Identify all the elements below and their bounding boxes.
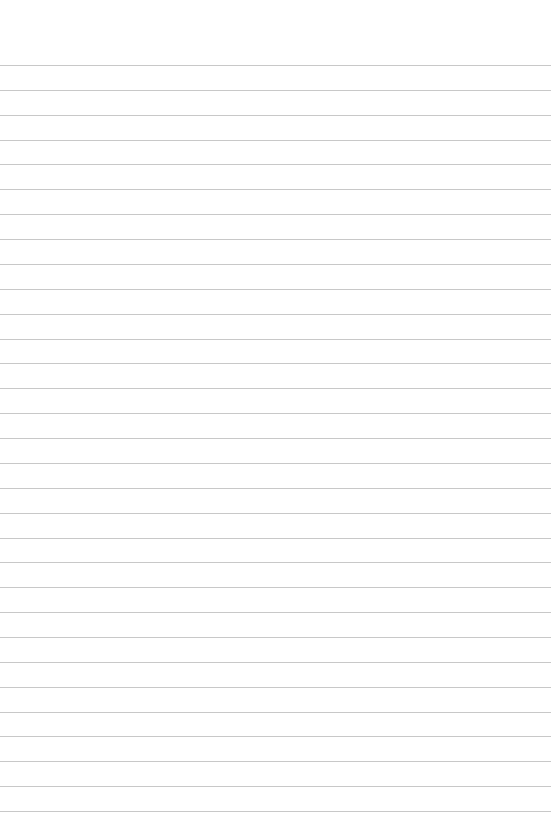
ruled-line [0,712,551,713]
ruled-line [0,363,551,364]
lined-paper-page [0,0,551,840]
ruled-line [0,413,551,414]
ruled-line [0,314,551,315]
ruled-line [0,786,551,787]
ruled-line [0,538,551,539]
ruled-line [0,65,551,66]
ruled-line [0,612,551,613]
ruled-line [0,189,551,190]
ruled-line [0,488,551,489]
ruled-line [0,637,551,638]
ruled-line [0,289,551,290]
ruled-line [0,662,551,663]
ruled-line [0,239,551,240]
ruled-line [0,562,551,563]
ruled-line [0,736,551,737]
ruled-line [0,463,551,464]
ruled-line [0,388,551,389]
ruled-line [0,214,551,215]
ruled-line [0,90,551,91]
ruled-line [0,761,551,762]
ruled-line [0,115,551,116]
ruled-line [0,164,551,165]
ruled-line [0,687,551,688]
ruled-line [0,339,551,340]
ruled-line [0,811,551,812]
ruled-line [0,140,551,141]
ruled-line [0,513,551,514]
ruled-line [0,264,551,265]
ruled-line [0,438,551,439]
ruled-line [0,587,551,588]
